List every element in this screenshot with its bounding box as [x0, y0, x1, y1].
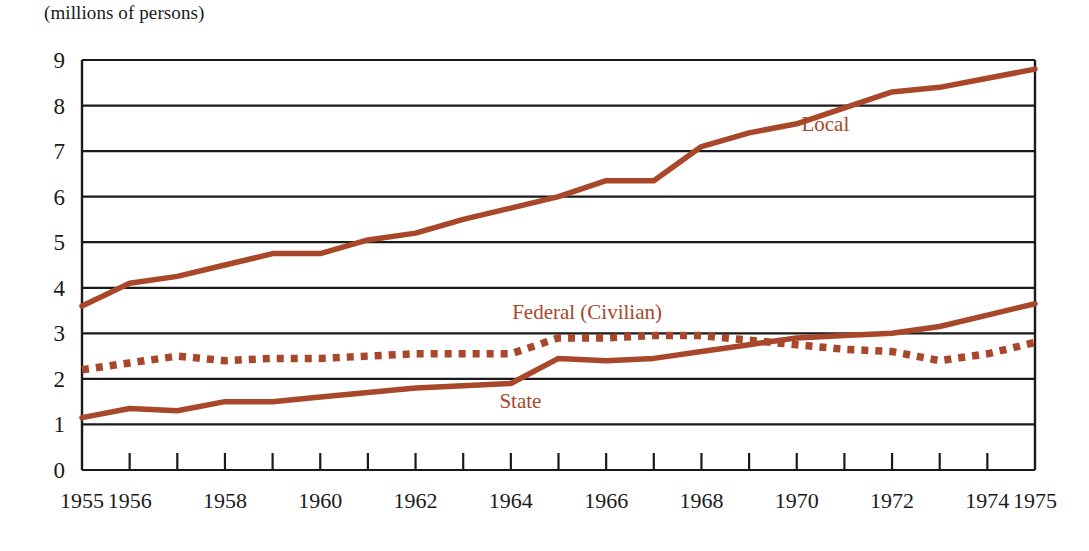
y-axis-tick-label: 3: [54, 321, 66, 346]
series-line-federal-civilian: [82, 336, 1035, 370]
x-axis-tick-label: 1955: [60, 488, 104, 513]
x-axis-tick-label: 1964: [489, 488, 533, 513]
y-axis-tick-label: 0: [54, 458, 66, 483]
x-axis-tick-label: 1962: [394, 488, 438, 513]
y-axis-tick-label: 5: [54, 230, 66, 255]
series-label-local: Local: [801, 112, 849, 136]
x-axis-tick-label: 1974: [965, 488, 1009, 513]
y-axis-tick-label: 8: [54, 94, 66, 119]
x-axis-tick-label: 1956: [108, 488, 152, 513]
x-axis-tick-label: 1970: [775, 488, 819, 513]
x-axis-tick-label: 1958: [203, 488, 247, 513]
y-axis-tick-label: 4: [54, 276, 66, 301]
x-axis-tick-label: 1968: [679, 488, 723, 513]
y-axis-tick-label: 7: [54, 139, 66, 164]
x-axis-tick-label: 1966: [584, 488, 628, 513]
y-axis-tick-label: 6: [54, 185, 66, 210]
x-axis-tick-label: 1972: [870, 488, 914, 513]
line-chart: 9876543210195519561958196019621964196619…: [0, 0, 1089, 551]
series-label-state: State: [499, 389, 541, 413]
x-axis-tick-label: 1960: [298, 488, 342, 513]
x-axis-tick-label: 1975: [1013, 488, 1057, 513]
y-axis-tick-label: 9: [54, 48, 66, 73]
series-label-federal-civilian: Federal (Civilian): [512, 300, 662, 324]
y-axis-tick-label: 1: [54, 412, 66, 437]
chart-figure: (millions of persons) 987654321019551956…: [0, 0, 1089, 551]
y-axis-tick-label: 2: [54, 367, 66, 392]
